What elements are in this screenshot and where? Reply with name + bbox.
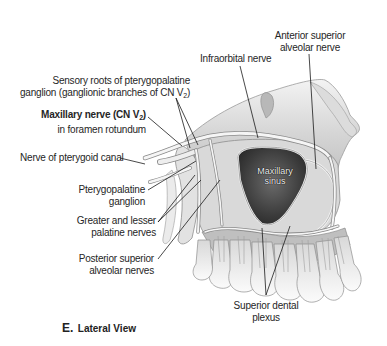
leader-maxillary-nerve [148,117,182,146]
label-line: alveolar nerve [272,42,348,54]
label-line: Pterygopalatine [60,184,145,196]
label-line: Maxillary nerve (CN V2) [30,109,146,124]
label-line: Greater and lesser [60,215,156,227]
label-line: ganglion (ganglionic branches of CN V2) [20,87,190,102]
label-palatine-nerves: Greater and lesser palatine nerves [60,215,156,239]
label-line: Superior dental [228,300,304,312]
label-superior-dental-plexus: Superior dental plexus [228,300,304,324]
label-text: Maxillary nerve (CN V [41,109,139,120]
figure-caption: E. Lateral View [62,318,136,336]
label-text: ) [143,109,146,120]
label-anterior-superior-alveolar-nerve: Anterior superior alveolar nerve [272,30,348,54]
label-line: alveolar nerves [60,265,154,277]
label-line: sinus [252,176,298,186]
label-maxillary-sinus: Maxillary sinus [252,166,298,186]
label-line: ganglion [60,196,145,208]
label-line: plexus [228,312,304,324]
label-nerve-of-pterygoid-canal: Nerve of pterygoid canal [20,152,124,164]
label-text: ) [187,87,190,98]
label-line: in foramen rotundum [30,124,146,136]
label-posterior-superior-alveolar-nerves: Posterior superior alveolar nerves [60,253,154,277]
label-pterygopalatine-ganglion: Pterygopalatine ganglion [60,184,145,208]
label-sensory-roots: Sensory roots of pterygopalatine ganglio… [20,75,190,102]
caption-letter: E. [62,321,73,335]
label-line: palatine nerves [60,227,156,239]
label-line: Sensory roots of pterygopalatine [20,75,190,87]
label-infraorbital-nerve: Infraorbital nerve [200,53,271,65]
label-line: Posterior superior [60,253,154,265]
caption-text: Lateral View [78,323,136,334]
label-text: ganglion (ganglionic branches of CN V [20,87,183,98]
leader-pterygoid-canal [120,158,145,164]
label-maxillary-nerve: Maxillary nerve (CN V2) in foramen rotun… [30,109,146,136]
maxillary-teeth [193,236,361,302]
label-line: Maxillary [252,166,298,176]
label-line: Anterior superior [272,30,348,42]
